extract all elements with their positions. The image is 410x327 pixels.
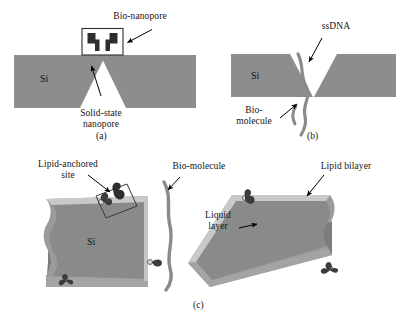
bio-molecule-anchor-c bbox=[148, 259, 163, 266]
panel-c-left-slab bbox=[44, 196, 148, 287]
caption-a: (a) bbox=[96, 131, 107, 141]
leader-lipid-bilayer bbox=[307, 175, 324, 196]
label-bio-molecule-c: Bio-molecule bbox=[163, 161, 235, 172]
label-si-b: Si bbox=[251, 70, 259, 81]
label-si-a: Si bbox=[40, 73, 48, 84]
caption-c: (c) bbox=[193, 300, 204, 310]
label-si-c: Si bbox=[87, 236, 95, 247]
leader-bio-molecule-c bbox=[168, 177, 180, 190]
leader-bio-nanopore bbox=[128, 30, 153, 43]
bio-nanopore-inset bbox=[82, 29, 123, 56]
label-solid-state-nanopore: Solid-state nanopore bbox=[55, 108, 147, 130]
label-bio-molecule-b: Bio- molecule bbox=[226, 105, 282, 127]
label-bio-nanopore: Bio-nanopore bbox=[100, 11, 180, 22]
label-ssdna: ssDNA bbox=[308, 21, 364, 32]
label-liquid-layer: Liquid layer bbox=[197, 210, 239, 232]
leader-ssdna bbox=[309, 38, 322, 62]
label-lipid-anchored-site: Lipid-anchored site bbox=[28, 159, 108, 181]
panel-a bbox=[14, 29, 196, 109]
bio-molecule-strand-c bbox=[164, 182, 171, 290]
panel-c bbox=[44, 175, 338, 290]
caption-b: (b) bbox=[307, 131, 318, 141]
lipid-anchored-molecule-right-bottom bbox=[321, 262, 338, 274]
label-lipid-bilayer: Lipid bilayer bbox=[310, 161, 382, 172]
panel-c-right-slab bbox=[188, 195, 335, 287]
